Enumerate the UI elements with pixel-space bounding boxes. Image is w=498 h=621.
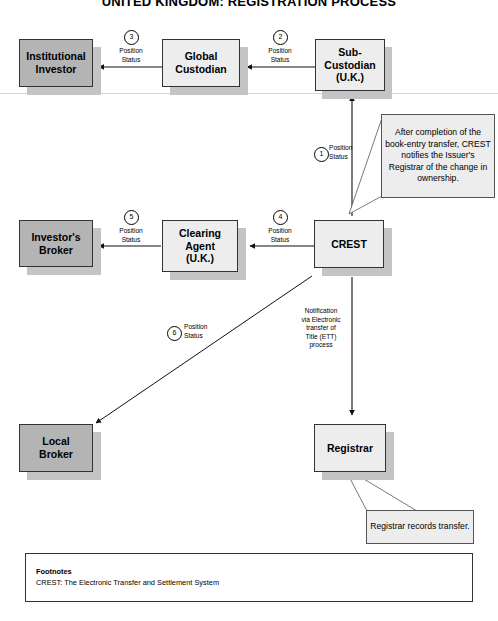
node-global-custodian[interactable]: Global Custodian (162, 39, 240, 87)
step-number-3: 3 (124, 30, 139, 45)
edge-label-ett: Notification via Electronic transfer of … (294, 307, 348, 350)
node-institutional-investor[interactable]: Institutional Investor (19, 39, 93, 87)
diagram-canvas: UNITED KINGDOM: REGISTRATION PROCESS (0, 0, 498, 621)
footnotes-heading: Footnotes (36, 567, 462, 576)
edge-label-6: Position Status (184, 323, 226, 340)
callout-text: Registrar records transfer. (370, 521, 469, 532)
node-local-broker[interactable]: Local Broker (19, 424, 93, 472)
page-title: UNITED KINGDOM: REGISTRATION PROCESS (0, 0, 498, 9)
node-registrar[interactable]: Registrar (314, 424, 386, 472)
step-number-2: 2 (273, 30, 288, 45)
step-number-4: 4 (273, 210, 288, 225)
node-investors-broker[interactable]: Investor's Broker (19, 220, 93, 267)
footnotes-box: Footnotes CREST: The Electronic Transfer… (25, 553, 473, 602)
edge-label-4: Position Status (259, 227, 301, 244)
step-number-1: 1 (314, 147, 329, 162)
node-clearing-agent[interactable]: Clearing Agent (U.K.) (162, 220, 238, 272)
step-number-5: 5 (124, 210, 139, 225)
node-label: Registrar (315, 442, 385, 455)
edge-label-2: Position Status (259, 47, 301, 64)
node-label: Institutional Investor (20, 50, 92, 76)
node-label: Investor's Broker (20, 231, 92, 257)
node-label: Local Broker (20, 435, 92, 461)
node-label: CREST (315, 238, 383, 251)
callout-text: After completion of the book-entry trans… (385, 127, 491, 184)
step-number-6: 6 (167, 326, 182, 341)
node-label: Global Custodian (163, 50, 239, 76)
edge-label-5: Position Status (110, 227, 152, 244)
edge-label-3: Position Status (110, 47, 152, 64)
footnote-crest: CREST: The Electronic Transfer and Settl… (36, 578, 462, 587)
callout-registrar-note: Registrar records transfer. (366, 510, 474, 544)
node-sub-custodian[interactable]: Sub- Custodian (U.K.) (315, 39, 385, 91)
node-label: Clearing Agent (U.K.) (163, 227, 237, 265)
node-label: Sub- Custodian (U.K.) (316, 46, 384, 84)
edge-label-1: Position Status (329, 144, 367, 161)
node-crest[interactable]: CREST (314, 220, 384, 268)
callout-crest-note: After completion of the book-entry trans… (381, 114, 495, 198)
